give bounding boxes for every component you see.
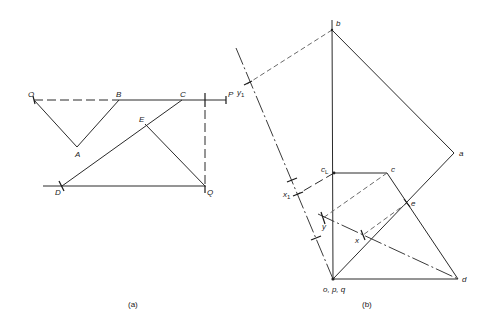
projector-e-x: [363, 203, 407, 235]
label-C: C: [180, 90, 186, 99]
label-P: P: [228, 90, 234, 99]
tick-x: [361, 230, 365, 240]
line-b-opq-vertical: [332, 20, 333, 279]
tick-chain-2: [311, 236, 321, 240]
label-x: x: [354, 236, 360, 245]
label-cL: cL: [321, 165, 329, 175]
orthographic-construction-diagram: O B C P E A D Q (a): [0, 0, 488, 323]
label-O: O: [28, 90, 34, 99]
label-x1: x1: [282, 190, 291, 200]
label-e: e: [411, 199, 416, 208]
caption-b: (b): [362, 300, 372, 309]
label-B: B: [116, 90, 122, 99]
label-y: y: [321, 222, 327, 231]
caption-a: (a): [128, 300, 138, 309]
projector-cL-x1: [298, 173, 334, 194]
point-cL: [333, 172, 336, 175]
label-y1: y1: [236, 88, 245, 98]
label-a: a: [459, 149, 464, 158]
projector-b-y1: [247, 30, 332, 84]
line-ba: [332, 30, 454, 153]
figure-a: O B C P E A D Q (a): [28, 90, 234, 309]
line-cd: [387, 173, 458, 279]
point-b: [331, 29, 333, 31]
auxiliary-chain-line: [236, 48, 333, 279]
figure-b: b y1 a cL c x1 e y x o, p, q d (b): [236, 19, 467, 309]
label-opq: o, p, q: [323, 285, 346, 294]
label-D: D: [55, 188, 61, 197]
label-b: b: [336, 19, 341, 28]
label-d: d: [462, 275, 467, 284]
label-Q: Q: [207, 188, 213, 197]
line-OA: [34, 100, 77, 147]
line-AB: [77, 100, 119, 147]
line-EQ: [145, 124, 205, 186]
chain-line-y-d: [318, 214, 458, 279]
label-c: c: [391, 165, 395, 174]
point-opq: [331, 277, 334, 280]
label-A: A: [74, 150, 80, 159]
label-E: E: [139, 115, 145, 124]
